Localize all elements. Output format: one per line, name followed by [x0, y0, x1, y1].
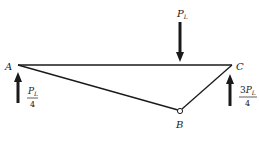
arrowhead-up-icon	[226, 74, 234, 84]
truss-diagram: A B C PL PL 4 3PL 4	[0, 0, 259, 144]
arrowhead-up-icon	[14, 72, 22, 82]
joint-b-pin	[177, 108, 182, 113]
applied-load-label: PL	[176, 8, 188, 20]
reaction-a-label: PL 4	[27, 86, 38, 109]
reaction-a-arrow	[14, 72, 22, 103]
member-ab	[18, 65, 178, 110]
svg-text:4: 4	[245, 99, 250, 108]
svg-text:PL: PL	[27, 86, 38, 97]
svg-text:4: 4	[30, 100, 35, 109]
node-label-b: B	[175, 119, 183, 130]
reaction-c-label: 3PL 4	[239, 85, 257, 108]
reaction-c-arrow	[226, 74, 234, 106]
svg-text:3PL: 3PL	[240, 85, 256, 96]
member-bc	[182, 65, 232, 109]
node-label-c: C	[236, 61, 244, 72]
node-label-a: A	[4, 61, 12, 72]
applied-load-arrow	[176, 22, 184, 62]
arrowhead-down-icon	[176, 52, 184, 62]
